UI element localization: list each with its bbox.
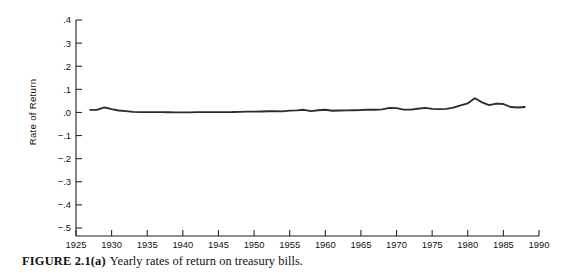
x-tick-label: 1950: [244, 239, 265, 250]
y-tick-label: −.5: [58, 222, 71, 233]
y-tick-group: .4.3.2.1.0−.1−.2−.3−.4−.5: [58, 14, 82, 233]
figure-caption-label: FIGURE 2.1(a): [22, 254, 106, 268]
data-series-line: [90, 98, 525, 112]
x-tick-label: 1955: [279, 239, 300, 250]
x-tick-label: 1980: [457, 239, 478, 250]
x-tick-label: 1925: [66, 239, 87, 250]
y-tick-label: .2: [63, 61, 71, 72]
x-axis: 1925193019351940194519501955196019651970…: [66, 230, 550, 250]
y-tick-label: −.1: [58, 130, 71, 141]
x-tick-label: 1965: [350, 239, 371, 250]
figure-container: .4.3.2.1.0−.1−.2−.3−.4−.5 19251930193519…: [0, 0, 573, 278]
x-tick-label: 1985: [493, 239, 514, 250]
y-tick-label: .0: [63, 107, 71, 118]
y-tick-label: −.3: [58, 176, 71, 187]
y-tick-label: .4: [63, 14, 71, 25]
x-tick-label: 1945: [208, 239, 229, 250]
x-tick-label: 1930: [101, 239, 122, 250]
x-tick-label: 1975: [422, 239, 443, 250]
figure-caption: FIGURE 2.1(a)Yearly rates of return on t…: [22, 254, 562, 269]
y-tick-label: −.4: [58, 199, 71, 210]
figure-caption-text: Yearly rates of return on treasury bills…: [106, 254, 303, 268]
y-axis-title: Rate of Return: [27, 79, 38, 146]
y-tick-label: .3: [63, 38, 71, 49]
y-tick-label: −.2: [58, 153, 71, 164]
rate-of-return-line-chart: .4.3.2.1.0−.1−.2−.3−.4−.5 19251930193519…: [0, 0, 573, 250]
x-tick-label: 1990: [529, 239, 550, 250]
x-tick-label: 1940: [172, 239, 193, 250]
y-axis: .4.3.2.1.0−.1−.2−.3−.4−.5: [58, 14, 82, 236]
x-tick-group: 1925193019351940194519501955196019651970…: [66, 230, 550, 250]
x-tick-label: 1970: [386, 239, 407, 250]
y-tick-label: .1: [63, 84, 71, 95]
x-tick-label: 1960: [315, 239, 336, 250]
x-tick-label: 1935: [137, 239, 158, 250]
